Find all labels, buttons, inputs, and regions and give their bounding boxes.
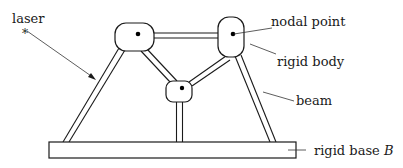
rigid-base-text: rigid base [314,143,384,158]
nodal-point-dot [180,86,184,90]
rigid-body-middle [166,81,192,102]
nodal-point-dot [136,32,141,37]
rigid-body-right [218,17,244,57]
rigid-body-label: rigid body [277,54,345,69]
beam-label: beam [296,93,332,108]
beam-right-leg [235,55,276,142]
leader-rigid-body [250,44,276,54]
beam-left-to-middle [141,49,177,82]
leader-beam [263,92,294,101]
beam-right-to-middle [189,56,230,86]
laser-arrow [27,31,96,80]
rigid-body-left [115,23,154,51]
beam-left-leg [63,48,125,142]
beam-middle-leg [177,102,183,142]
laser-star-icon: * [22,27,28,41]
rigid-base-symbol: B [383,143,394,158]
beam-top [154,33,218,38]
parallel-kinematic-diagram: laser * nodal point rigid body beam rigi… [0,0,403,168]
rigid-base-label: rigid base B [314,143,393,158]
laser-label: laser [12,11,45,26]
nodal-point-label: nodal point [271,14,346,29]
rigid-base [49,142,296,158]
